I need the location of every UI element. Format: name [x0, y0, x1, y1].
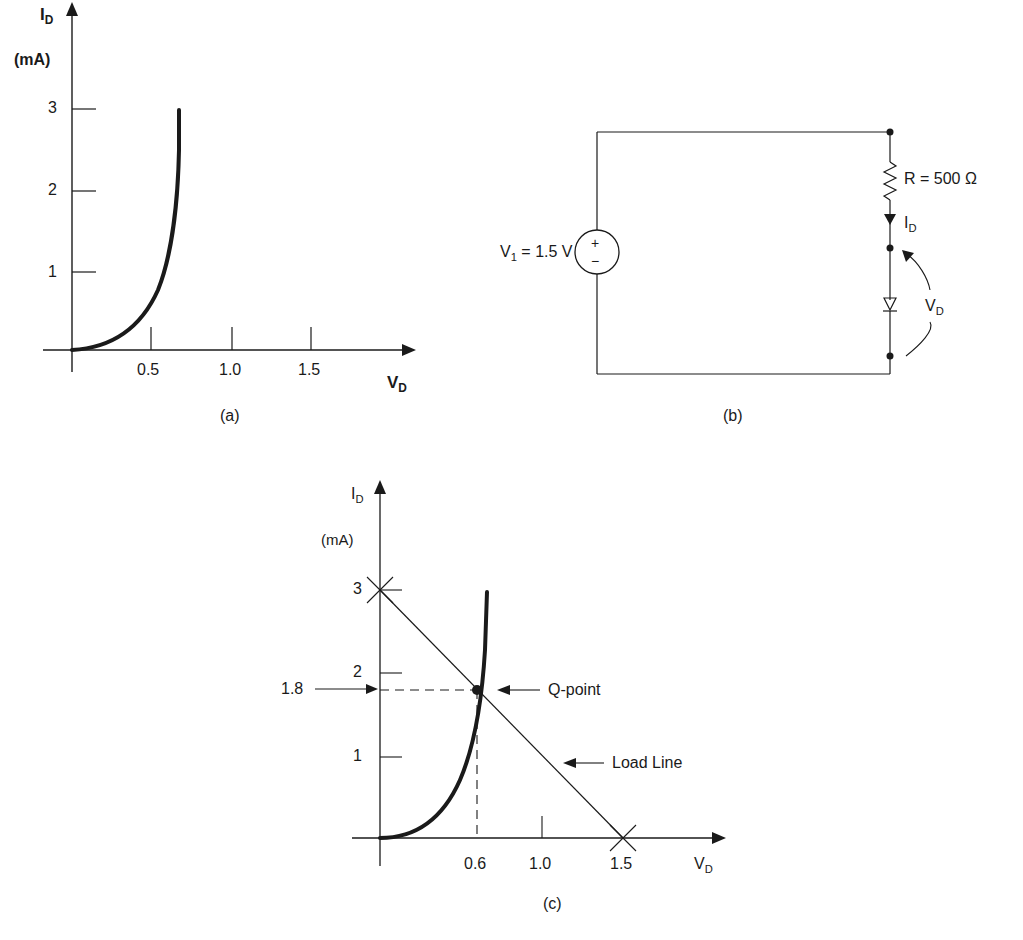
load-line-label: Load Line: [612, 755, 682, 771]
resistor-icon: [884, 162, 896, 200]
q-level-label: 1.8: [281, 681, 303, 697]
voltage-arrow-icon: [902, 250, 914, 262]
panel-c-y-arrow-icon: [374, 480, 386, 494]
panel-c-y-label: ID: [351, 486, 364, 502]
panel-a-xtick-label-0.5: 0.5: [137, 362, 159, 378]
node-diode-anode: [887, 245, 894, 252]
panel-a-x-arrow-icon: [402, 344, 416, 356]
load-line: [380, 590, 623, 838]
current-arrow-icon: [884, 214, 896, 225]
panel-a-ytick-label-2: 2: [48, 182, 57, 198]
panel-a-y-label: ID: [40, 6, 53, 23]
panel-a-x-label: VD: [387, 374, 407, 391]
panel-a-ytick-label-1: 1: [48, 264, 57, 280]
panel-c-caption: (c): [543, 896, 562, 912]
panel-c-ytick-label-2: 2: [353, 664, 362, 680]
panel-c-xtick-label-1.0: 1.0: [529, 856, 551, 872]
level-arrow-icon: [366, 684, 378, 694]
panel-a-chart: [43, 2, 416, 372]
panel-a-xtick-label-1.5: 1.5: [298, 362, 320, 378]
panel-c-x-arrow-icon: [712, 832, 726, 844]
source-label: V1 = 1.5 V: [500, 244, 573, 260]
panel-c-diode-curve: [380, 592, 487, 838]
panel-a-ytick-label-3: 3: [48, 100, 57, 116]
panel-a-caption: (a): [220, 408, 240, 424]
panel-c-ytick-label-3: 3: [353, 581, 362, 597]
panel-c-y-unit: (mA): [321, 532, 354, 547]
voltage-label: VD: [925, 298, 944, 314]
q-point-marker: [472, 685, 482, 695]
node-diode-cathode: [887, 353, 894, 360]
panel-c-ytick-label-1: 1: [353, 748, 362, 764]
resistor-label: R = 500 Ω: [904, 171, 977, 187]
panel-b-caption: (b): [723, 408, 743, 424]
current-label: ID: [904, 215, 917, 231]
panel-c-x-label: VD: [694, 856, 713, 872]
panel-a-y-unit: (mA): [14, 52, 50, 68]
panel-c-chart: [315, 480, 726, 866]
figure-canvas: [0, 0, 1023, 940]
source-plus-sign: +: [591, 236, 599, 250]
source-minus-sign: −: [591, 254, 599, 268]
panel-a-y-arrow-icon: [66, 2, 78, 16]
load-line-arrow-icon: [563, 758, 576, 768]
panel-b-circuit: [575, 129, 931, 375]
panel-c-xtick-label-0.6: 0.6: [464, 856, 486, 872]
q-point-label: Q-point: [548, 682, 600, 698]
panel-c-xtick-label-1.5: 1.5: [610, 856, 632, 872]
q-point-arrow-icon: [497, 685, 510, 695]
panel-a-diode-curve: [72, 110, 179, 350]
panel-a-xtick-label-1.0: 1.0: [219, 362, 241, 378]
